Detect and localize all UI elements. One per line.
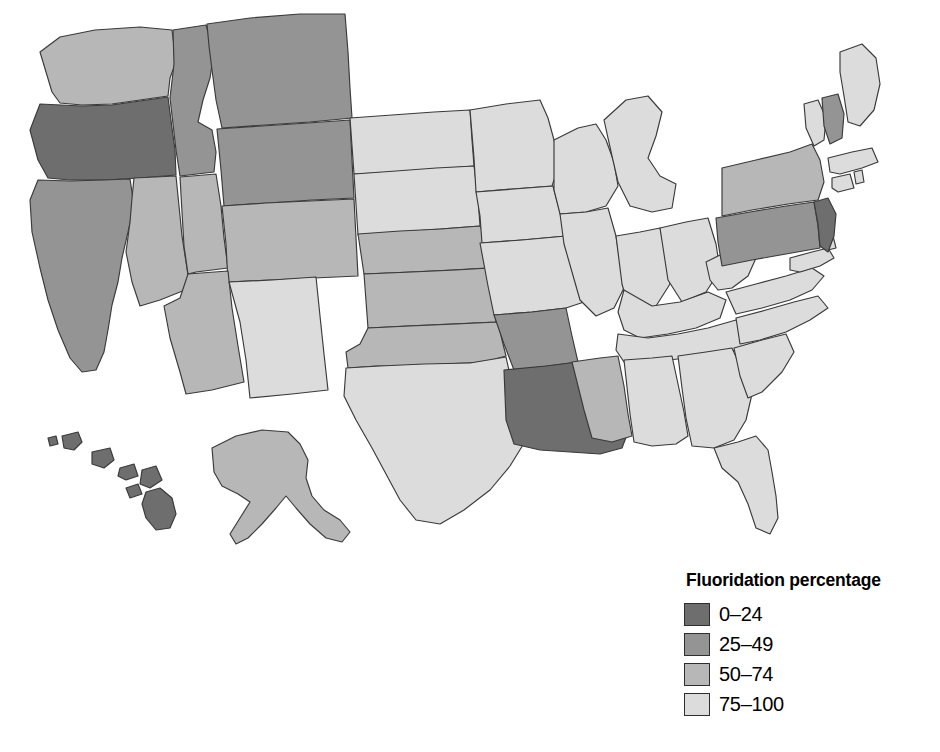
legend-swatch	[684, 663, 710, 686]
legend-swatch	[684, 693, 710, 716]
legend-label: 50–74	[719, 664, 773, 684]
state-ia: Iowa — 75–100	[476, 186, 566, 243]
state-ne: Nebraska — 50–74	[358, 226, 500, 274]
state-al: Alabama — 75–100	[624, 356, 688, 446]
legend-item: 50–74	[684, 660, 934, 688]
legend-label: 75–100	[719, 694, 784, 714]
state-mn: Minnesota — 75–100	[470, 100, 560, 192]
state-hi: Hawaii — 0–24	[48, 432, 176, 530]
state-co: Colorado — 50–74	[222, 199, 358, 282]
state-ma: Massachusetts — 75–100	[828, 148, 878, 174]
state-ri: Rhode Island — 75–100	[854, 170, 864, 184]
legend-items: 0–2425–4950–7475–100	[684, 600, 934, 718]
legend-item: 0–24	[684, 600, 934, 628]
legend-item: 25–49	[684, 630, 934, 658]
state-ak: Alaska — 50–74	[212, 430, 350, 544]
legend-label: 25–49	[719, 634, 773, 654]
legend-label: 0–24	[719, 604, 762, 624]
state-mi: Michigan — 75–100	[604, 96, 676, 212]
state-nv: Nevada — 50–74	[126, 176, 190, 306]
state-ct: Connecticut — 75–100	[832, 174, 854, 192]
state-me: Maine — 75–100	[840, 44, 880, 126]
state-ut: Utah — 50–74	[180, 174, 228, 274]
state-mt: Montana — 25–49	[207, 14, 352, 128]
state-or: Oregon — 0–24	[30, 97, 176, 180]
legend-swatch	[684, 633, 710, 656]
state-sd: South Dakota — 75–100	[354, 166, 480, 235]
legend-swatch	[684, 603, 710, 626]
state-fl: Florida — 75–100	[714, 436, 778, 534]
state-ks: Kansas — 50–74	[364, 268, 496, 328]
figure-container: Washington — 50–74Oregon — 0–24Californi…	[0, 0, 940, 752]
state-nh: New Hampshire — 25–49	[822, 94, 844, 144]
legend-title: Fluoridation percentage	[686, 570, 934, 591]
states-layer: Washington — 50–74Oregon — 0–24Californi…	[30, 14, 880, 544]
state-wy: Wyoming — 25–49	[217, 120, 354, 206]
state-wa: Washington — 50–74	[40, 27, 176, 105]
state-tx: Texas — 75–100	[344, 357, 526, 524]
state-nd: North Dakota — 75–100	[350, 110, 474, 174]
legend-item: 75–100	[684, 690, 934, 718]
legend: Fluoridation percentage 0–2425–4950–7475…	[684, 570, 934, 720]
state-ca: California — 25–49	[30, 179, 134, 372]
